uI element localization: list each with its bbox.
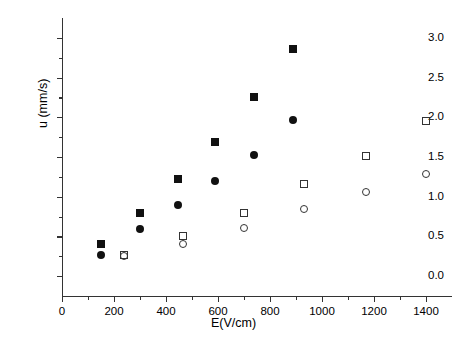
y-axis-title: u (mm/s): [36, 79, 50, 128]
y-tick-label: 1.5: [428, 151, 444, 163]
y-tick-major: [57, 117, 62, 118]
x-tick-minor: [88, 297, 89, 300]
plot-area: 0.00.51.01.52.02.53.0 020040060080010001…: [62, 18, 452, 296]
y-tick-minor: [59, 137, 62, 138]
data-point-open-circle: [179, 240, 187, 248]
data-point-filled-circle: [250, 151, 258, 159]
x-tick-major: [62, 297, 63, 302]
data-point-open-square: [422, 117, 430, 125]
y-tick-major: [57, 276, 62, 277]
x-axis-title: E(V/cm): [0, 316, 467, 330]
data-point-filled-circle: [136, 225, 144, 233]
x-tick-minor: [296, 297, 297, 300]
y-tick-major: [57, 157, 62, 158]
x-tick-minor: [192, 297, 193, 300]
x-tick-minor: [400, 297, 401, 300]
data-point-filled-square: [211, 138, 219, 146]
data-point-open-circle: [300, 205, 308, 213]
x-tick-major: [114, 297, 115, 302]
y-tick-major: [57, 197, 62, 198]
x-tick-major: [218, 297, 219, 302]
data-point-filled-circle: [174, 201, 182, 209]
data-point-filled-square: [250, 93, 258, 101]
data-point-open-square: [300, 180, 308, 188]
x-tick-major: [426, 297, 427, 302]
data-point-filled-square: [97, 240, 105, 248]
y-tick-minor: [59, 97, 62, 98]
y-tick-minor: [59, 177, 62, 178]
data-point-filled-square: [174, 175, 182, 183]
data-point-open-circle: [422, 170, 430, 178]
x-axis-line: [62, 296, 452, 297]
data-point-filled-circle: [289, 116, 297, 124]
data-point-filled-circle: [97, 251, 105, 259]
x-tick-major: [166, 297, 167, 302]
x-tick-minor: [140, 297, 141, 300]
y-tick-minor: [59, 217, 62, 218]
y-tick-major: [57, 236, 62, 237]
x-tick-minor: [244, 297, 245, 300]
chart-figure: 0.00.51.01.52.02.53.0 020040060080010001…: [0, 0, 467, 355]
data-point-filled-circle: [211, 177, 219, 185]
data-point-open-circle: [362, 188, 370, 196]
data-point-filled-square: [136, 209, 144, 217]
y-tick-minor: [59, 58, 62, 59]
y-tick-minor: [59, 256, 62, 257]
data-point-filled-square: [289, 45, 297, 53]
y-tick-label: 2.0: [428, 111, 444, 123]
y-tick-label: 0.5: [428, 230, 444, 242]
data-point-open-circle: [240, 224, 248, 232]
y-tick-label: 1.0: [428, 191, 444, 203]
x-tick-minor: [348, 297, 349, 300]
y-tick-label: 2.5: [428, 72, 444, 84]
data-point-open-square: [362, 152, 370, 160]
y-tick-label: 3.0: [428, 32, 444, 44]
x-tick-major: [374, 297, 375, 302]
y-tick-label: 0.0: [428, 270, 444, 282]
y-axis-line: [62, 18, 63, 296]
y-tick-major: [57, 78, 62, 79]
x-tick-major: [270, 297, 271, 302]
data-point-open-square: [240, 209, 248, 217]
data-point-open-square: [179, 232, 187, 240]
x-tick-major: [322, 297, 323, 302]
y-tick-major: [57, 38, 62, 39]
